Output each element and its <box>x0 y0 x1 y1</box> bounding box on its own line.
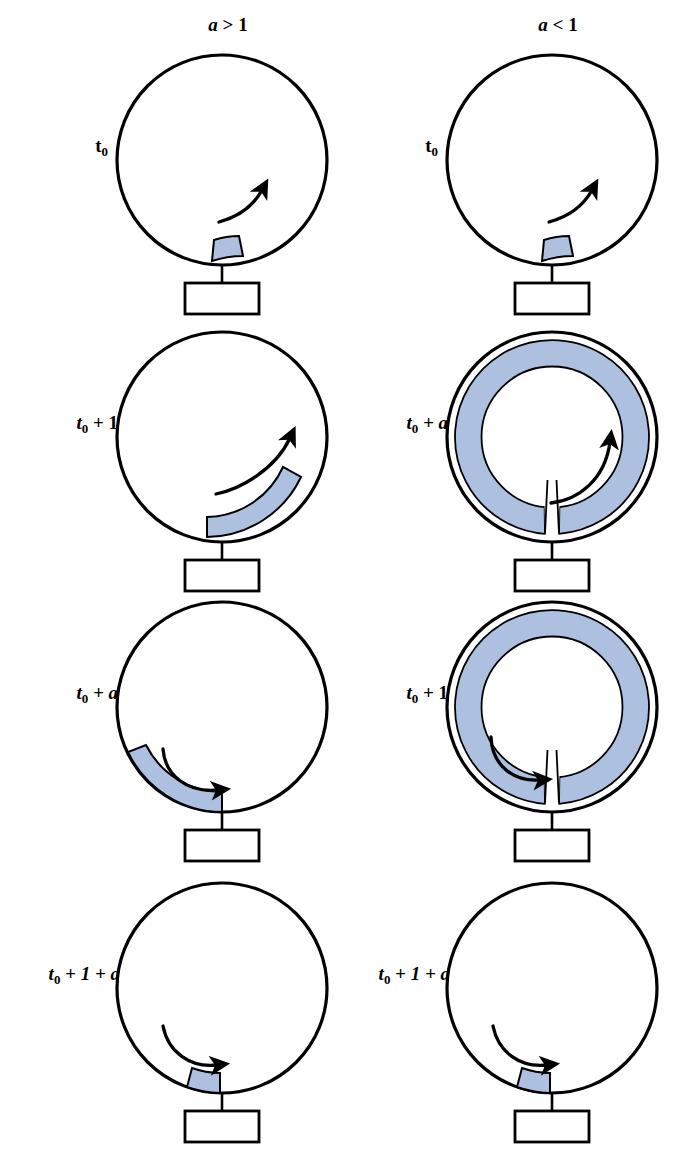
base-box <box>185 1111 259 1142</box>
base-box <box>185 283 259 314</box>
base-box <box>515 560 589 591</box>
disc-row3-left <box>117 602 327 861</box>
base-box <box>515 283 589 314</box>
disc-outline <box>447 883 657 1093</box>
rotating-disc-timing-diagram: a > 1 a < 1 t0 t0 t0 + 1 t0 + a t0 + a t… <box>0 0 679 1168</box>
disc-row4-left <box>117 883 327 1142</box>
disc-outline <box>447 55 657 265</box>
base-box <box>185 830 259 861</box>
disc-row1-right <box>447 55 657 314</box>
disc-row2-left <box>117 332 327 591</box>
disc-row2-right <box>447 332 657 591</box>
base-box <box>515 1111 589 1142</box>
disc-outline <box>117 883 327 1093</box>
base-box <box>515 830 589 861</box>
diagram-canvas <box>0 0 679 1168</box>
disc-row4-right <box>447 883 657 1142</box>
disc-row3-right <box>447 602 657 861</box>
disc-outline <box>117 332 327 542</box>
disc-row1-left <box>117 55 327 314</box>
base-box <box>185 560 259 591</box>
disc-outline <box>117 55 327 265</box>
